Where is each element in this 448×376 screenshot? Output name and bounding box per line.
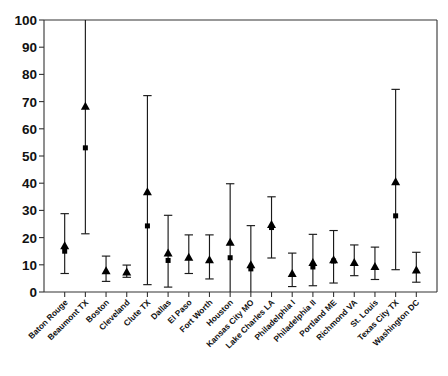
triangle-marker bbox=[102, 266, 111, 274]
y-tick-label: 90 bbox=[22, 40, 37, 55]
error-bar bbox=[81, 20, 89, 234]
triangle-marker bbox=[412, 265, 421, 273]
triangle-marker bbox=[308, 258, 317, 266]
triangle-marker bbox=[81, 102, 90, 110]
y-tick-label: 40 bbox=[22, 176, 37, 191]
triangle-marker bbox=[226, 238, 235, 246]
y-tick-label: 0 bbox=[29, 285, 37, 300]
triangle-marker bbox=[143, 187, 152, 195]
y-tick-label: 20 bbox=[22, 231, 37, 246]
y-tick-label: 30 bbox=[22, 203, 37, 218]
triangle-marker bbox=[267, 220, 276, 228]
error-bar-group bbox=[60, 20, 420, 292]
y-tick-label: 50 bbox=[22, 149, 37, 164]
y-tick-label: 10 bbox=[22, 258, 37, 273]
square-marker bbox=[145, 223, 150, 228]
triangle-marker bbox=[329, 255, 338, 263]
chart-container: 0102030405060708090100 Baton RougeBeaumo… bbox=[0, 0, 448, 376]
triangle-marker bbox=[205, 255, 214, 263]
y-tick-label: 60 bbox=[22, 122, 37, 137]
triangle-marker bbox=[184, 253, 193, 261]
y-tick-label: 80 bbox=[22, 67, 37, 82]
triangle-marker bbox=[246, 260, 255, 268]
x-axis-tick-marks bbox=[65, 292, 417, 297]
y-tick-label: 100 bbox=[14, 13, 37, 28]
plot-axis-lines bbox=[44, 20, 437, 292]
triangle-marker bbox=[370, 262, 379, 270]
triangle-marker bbox=[288, 269, 297, 277]
error-bar bbox=[247, 226, 255, 292]
square-marker bbox=[228, 255, 233, 260]
square-marker bbox=[166, 258, 171, 263]
triangle-marker bbox=[122, 268, 131, 276]
x-axis-category-labels: Baton RougeBeaumont TXBostonClevelandClu… bbox=[26, 297, 421, 350]
scatter-plot-with-error-bars: 0102030405060708090100 Baton RougeBeaumo… bbox=[0, 0, 448, 376]
triangle-marker-group bbox=[60, 102, 421, 277]
square-marker bbox=[83, 145, 88, 150]
triangle-marker bbox=[164, 249, 173, 257]
square-marker bbox=[62, 249, 67, 254]
triangle-marker bbox=[350, 258, 359, 266]
square-marker bbox=[393, 213, 398, 218]
y-axis-tick-labels: 0102030405060708090100 bbox=[14, 13, 37, 300]
y-tick-label: 70 bbox=[22, 95, 37, 110]
triangle-marker bbox=[60, 241, 69, 249]
triangle-marker bbox=[391, 177, 400, 185]
y-axis-tick-marks bbox=[39, 20, 44, 292]
